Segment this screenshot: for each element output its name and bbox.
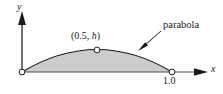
- x-axis-tick-label: 1.0: [163, 76, 176, 86]
- figure-canvas: [0, 0, 223, 94]
- parabola-leader-line: [144, 31, 161, 46]
- apex-y-value: h: [92, 30, 97, 41]
- parabola-label: parabola: [163, 20, 199, 31]
- x-axis-label: x: [211, 64, 215, 74]
- apex-point-marker: [94, 47, 100, 53]
- apex-x-value: 0.5: [74, 30, 87, 41]
- y-axis-label: y: [17, 2, 21, 12]
- apex-point-label: (0.5, h): [71, 31, 100, 41]
- parabola-figure: y x (0.5, h) parabola 1.0: [0, 0, 223, 94]
- y-axis-arrowhead: [18, 11, 26, 25]
- x-axis-arrowhead: [194, 68, 208, 75]
- origin-point-marker: [19, 69, 25, 75]
